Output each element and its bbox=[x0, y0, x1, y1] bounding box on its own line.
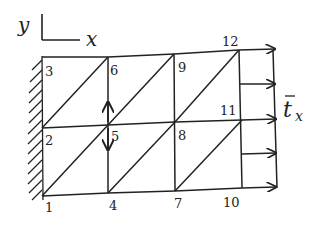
axes-icon bbox=[42, 14, 80, 40]
node-label-6: 6 bbox=[110, 63, 118, 78]
node-label-12: 12 bbox=[222, 34, 239, 49]
x-axis-label: x bbox=[86, 27, 97, 51]
node-label-9: 9 bbox=[178, 60, 186, 75]
node-label-1: 1 bbox=[45, 200, 53, 215]
node-label-5: 5 bbox=[111, 129, 119, 144]
svg-text:x: x bbox=[295, 108, 303, 124]
node-label-3: 3 bbox=[45, 64, 53, 79]
node-label-8: 8 bbox=[178, 128, 186, 143]
node-label-2: 2 bbox=[45, 133, 53, 148]
node-label-11: 11 bbox=[220, 103, 237, 118]
mesh-grid bbox=[42, 50, 242, 196]
y-axis-label: y bbox=[17, 13, 30, 37]
node-labels: 1 2 3 4 5 6 7 8 9 10 11 12 bbox=[45, 34, 240, 215]
svg-text:t: t bbox=[283, 97, 292, 122]
traction-label: t x bbox=[283, 96, 303, 124]
node-label-7: 7 bbox=[174, 196, 182, 211]
node-label-10: 10 bbox=[223, 195, 240, 210]
node-label-4: 4 bbox=[109, 198, 117, 213]
fe-mesh-diagram: y x bbox=[0, 0, 320, 226]
fixed-wall-hatching-icon bbox=[28, 56, 43, 200]
traction-arrows-icon bbox=[239, 49, 277, 188]
